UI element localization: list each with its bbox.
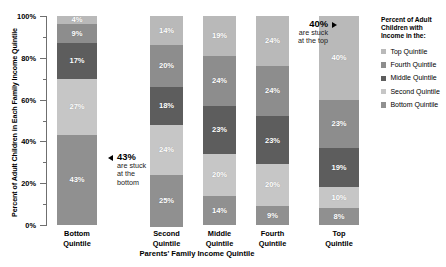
bar-segment: 23% xyxy=(319,100,359,148)
y-axis-tick-major xyxy=(40,225,47,226)
legend-item-label: Fourth Quintile xyxy=(390,61,436,69)
legend-item-label: Top Quintile xyxy=(390,48,427,56)
bar-segment: 4% xyxy=(57,16,97,24)
bar-segment-label: 18% xyxy=(159,102,174,110)
bar-segment-label: 17% xyxy=(70,57,85,65)
legend-swatch xyxy=(381,76,386,81)
bar-segment: 20% xyxy=(203,154,236,196)
legend-item[interactable]: Bottom Quintile xyxy=(381,101,446,109)
callout-top-stuck: 40% are stuck at the top xyxy=(268,19,328,46)
bar-segment-label: 9% xyxy=(72,30,83,38)
bar-segment: 24% xyxy=(150,125,183,175)
callout-arrow-left-icon xyxy=(108,155,113,161)
bar-segment-label: 40% xyxy=(332,54,347,62)
y-axis-tick-label: 80% xyxy=(21,53,36,62)
y-axis-tick-major xyxy=(40,100,47,101)
legend-item[interactable]: Middle Quintile xyxy=(381,74,446,82)
y-axis-tick-major xyxy=(40,141,47,142)
bar-segment: 19% xyxy=(319,148,359,188)
bar-segment-label: 4% xyxy=(72,16,83,24)
stacked-bar: 24%24%23%20%9% xyxy=(256,16,289,225)
y-axis xyxy=(40,16,47,225)
legend-item[interactable]: Fourth Quintile xyxy=(381,61,446,69)
bar-segment-label: 19% xyxy=(332,164,347,172)
bar-segment-label: 43% xyxy=(70,176,85,184)
bar-segment: 24% xyxy=(256,66,289,116)
bar-segment-label: 27% xyxy=(70,103,85,111)
x-axis-category-label: BottomQuintile xyxy=(41,229,113,248)
bar-segment-label: 10% xyxy=(332,194,347,202)
legend-item[interactable]: Top Quintile xyxy=(381,48,446,56)
bar-segment: 20% xyxy=(256,164,289,206)
bar-segment: 20% xyxy=(150,45,183,87)
y-axis-tick-label: 60% xyxy=(21,95,36,104)
bar-group: 14%20%18%24%25%SecondQuintile xyxy=(150,16,183,225)
y-axis-tick-major xyxy=(40,16,47,17)
x-axis-category-label-line2: Quintile xyxy=(303,239,375,249)
legend-item-label: Bottom Quintile xyxy=(390,101,438,109)
x-axis-category-label-line1: Bottom xyxy=(41,229,113,239)
y-axis-tick-labels: 100%80%60%40%20%0% xyxy=(0,16,38,225)
stacked-bar: 40%23%19%10%8% xyxy=(319,16,359,225)
bar-segment: 25% xyxy=(150,175,183,227)
bar-segment: 8% xyxy=(319,208,359,225)
legend-swatch xyxy=(381,49,386,54)
bar-segment: 24% xyxy=(203,56,236,106)
legend-items: Top QuintileFourth QuintileMiddle Quinti… xyxy=(381,48,446,110)
bar-segment-label: 14% xyxy=(159,27,174,35)
bar-segment-label: 24% xyxy=(159,146,174,154)
y-axis-tick-label: 20% xyxy=(21,179,36,188)
y-axis-tick-major xyxy=(40,58,47,59)
callout-top-line2: at the top xyxy=(268,37,328,45)
x-axis-category-label: FourthQuintile xyxy=(240,229,305,248)
bar-segment-label: 8% xyxy=(334,213,345,221)
legend-swatch xyxy=(381,102,386,107)
bar-segment: 19% xyxy=(203,16,236,56)
x-axis-title: Parents' Family Income Quintile xyxy=(47,249,347,258)
legend: Percent of Adult Children with Income in… xyxy=(381,16,446,115)
stacked-bar-chart: Percent of Adult Children in Each Family… xyxy=(0,0,446,267)
legend-title-line2: Children with xyxy=(381,24,445,32)
callout-arrow-right-icon xyxy=(332,22,337,28)
bar-segment-label: 20% xyxy=(265,181,280,189)
y-axis-tick-label: 40% xyxy=(21,137,36,146)
y-axis-tick-label: 0% xyxy=(25,221,36,230)
bar-segment: 10% xyxy=(319,187,359,208)
stacked-bar: 19%24%23%20%14% xyxy=(203,16,236,225)
plot-area: 4%9%17%27%43%BottomQuintile14%20%18%24%2… xyxy=(47,16,377,225)
y-axis-tick-major xyxy=(40,183,47,184)
x-axis-category-label: TopQuintile xyxy=(303,229,375,248)
bar-segment: 23% xyxy=(256,116,289,164)
x-axis-category-label-line1: Fourth xyxy=(240,229,305,239)
legend-item[interactable]: Second Quintile xyxy=(381,88,446,96)
bar-segment: 43% xyxy=(57,135,97,225)
legend-swatch xyxy=(381,62,386,67)
callout-bottom-stuck: 43% are stuck at the bottom xyxy=(117,152,146,187)
stacked-bar: 4%9%17%27%43% xyxy=(57,16,97,225)
bar-segment-label: 14% xyxy=(212,207,227,215)
callout-bottom-line3: bottom xyxy=(117,179,146,187)
legend-title-line3: Income in the: xyxy=(381,32,445,40)
bar-group: 40%23%19%10%8%TopQuintile xyxy=(319,16,359,225)
bar-segment: 23% xyxy=(203,106,236,154)
legend-item-label: Middle Quintile xyxy=(390,74,436,82)
legend-title: Percent of Adult Children with Income in… xyxy=(381,16,445,41)
bar-segment-label: 24% xyxy=(212,77,227,85)
legend-swatch xyxy=(381,89,386,94)
bar-segment-label: 20% xyxy=(212,171,227,179)
bar-segment-label: 23% xyxy=(212,126,227,134)
bar-segment: 9% xyxy=(57,24,97,43)
bar-segment: 17% xyxy=(57,43,97,79)
stacked-bar: 14%20%18%24%25% xyxy=(150,16,183,225)
bar-segment: 18% xyxy=(150,87,183,125)
bar-segment: 14% xyxy=(203,196,236,225)
x-axis-category-label-line2: Quintile xyxy=(240,239,305,249)
legend-item-label: Second Quintile xyxy=(390,88,439,96)
bar-group: 4%9%17%27%43%BottomQuintile xyxy=(57,16,97,225)
bar-segment-label: 25% xyxy=(159,197,174,205)
y-axis-tick-label: 100% xyxy=(17,12,36,21)
bar-segment-label: 19% xyxy=(212,32,227,40)
bar-segment-label: 20% xyxy=(159,62,174,70)
bar-segment: 9% xyxy=(256,206,289,225)
bar-segment: 27% xyxy=(57,79,97,135)
